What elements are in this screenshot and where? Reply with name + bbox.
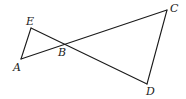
geometry-diagram: E A B C D bbox=[0, 0, 186, 99]
label-a: A bbox=[12, 61, 21, 74]
label-b: B bbox=[57, 46, 66, 59]
segment-cd bbox=[147, 10, 167, 84]
label-e: E bbox=[25, 15, 34, 28]
label-c: C bbox=[170, 2, 179, 15]
segment-ac bbox=[21, 10, 167, 59]
label-d: D bbox=[145, 85, 155, 98]
segment-ae bbox=[21, 28, 31, 59]
